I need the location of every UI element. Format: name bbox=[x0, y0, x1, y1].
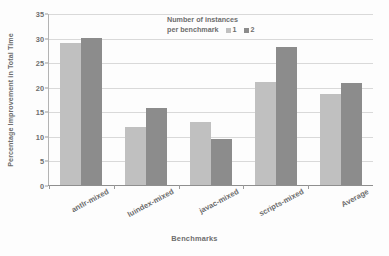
bar[interactable] bbox=[276, 47, 297, 185]
legend-swatch bbox=[244, 28, 249, 33]
y-tick-label: 20 bbox=[36, 83, 44, 92]
bar[interactable] bbox=[146, 108, 167, 185]
bar-group bbox=[179, 14, 244, 185]
bar[interactable] bbox=[190, 122, 211, 185]
y-tick-label: 5 bbox=[40, 157, 44, 166]
x-axis-category-label: scripts-mixed bbox=[257, 187, 305, 218]
legend-title-line-2-row: per benchmark 12 bbox=[167, 25, 255, 36]
y-tick-mark bbox=[45, 63, 48, 64]
y-axis-title-text: Percentage Improvement in Total Time bbox=[7, 33, 15, 166]
bar-group bbox=[308, 14, 373, 185]
x-axis-title: Benchmarks bbox=[0, 234, 389, 243]
y-axis-title: Percentage Improvement in Total Time bbox=[2, 14, 20, 186]
y-tick-label: 15 bbox=[36, 108, 44, 117]
y-tick-mark bbox=[45, 87, 48, 88]
y-tick-mark bbox=[45, 38, 48, 39]
x-axis-category-label: Average bbox=[339, 187, 369, 209]
y-tick-label: 35 bbox=[36, 10, 44, 19]
bar[interactable] bbox=[255, 82, 276, 185]
legend-entries: 12 bbox=[219, 25, 255, 36]
legend-title-line-2-text: per benchmark bbox=[167, 25, 219, 35]
bar-chart-figure: Percentage Improvement in Total Time 051… bbox=[0, 0, 389, 256]
chart-legend: Number of instances per benchmark 12 bbox=[167, 15, 255, 36]
y-tick-label: 25 bbox=[36, 59, 44, 68]
legend-entry[interactable]: 1 bbox=[226, 25, 237, 35]
bar[interactable] bbox=[341, 83, 362, 185]
y-tick-mark bbox=[45, 136, 48, 137]
bar[interactable] bbox=[211, 139, 232, 185]
x-axis-category-label: luindex-mixed bbox=[126, 187, 175, 219]
x-axis-category-labels: antlr-mixedluindex-mixedjavac-mixedscrip… bbox=[48, 187, 373, 233]
plot-area: 05101520253035 bbox=[48, 14, 373, 186]
legend-label: 1 bbox=[233, 25, 237, 35]
bar[interactable] bbox=[125, 127, 146, 185]
y-tick-label: 0 bbox=[40, 182, 44, 191]
y-tick-mark bbox=[45, 14, 48, 15]
bars-layer bbox=[49, 14, 373, 185]
bar[interactable] bbox=[81, 38, 102, 185]
x-axis-category-label: javac-mixed bbox=[198, 187, 241, 215]
y-tick-mark bbox=[45, 112, 48, 113]
bar-group bbox=[243, 14, 308, 185]
y-tick-mark bbox=[45, 161, 48, 162]
x-axis-category-label: antlr-mixed bbox=[70, 187, 110, 214]
bar-group bbox=[49, 14, 114, 185]
legend-label: 2 bbox=[251, 25, 255, 35]
legend-title-line-1: Number of instances bbox=[167, 15, 255, 25]
bar[interactable] bbox=[60, 43, 81, 186]
legend-swatch bbox=[226, 28, 231, 33]
bar[interactable] bbox=[320, 94, 341, 185]
y-tick-label: 10 bbox=[36, 132, 44, 141]
x-axis-line bbox=[48, 185, 373, 186]
legend-entry[interactable]: 2 bbox=[244, 25, 255, 35]
y-tick-label: 30 bbox=[36, 34, 44, 43]
bar-group bbox=[114, 14, 179, 185]
